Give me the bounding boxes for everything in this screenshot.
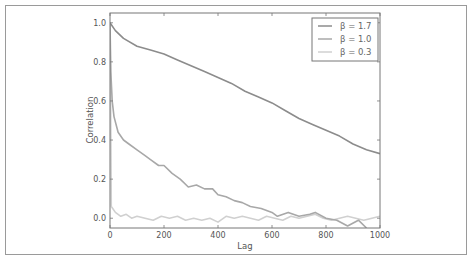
x-tick-label: 600: [264, 231, 279, 240]
x-tick-label: 800: [318, 231, 333, 240]
x-axis-label: Lag: [237, 241, 252, 251]
legend-label-beta-0-3: β = 0.3: [340, 47, 371, 57]
y-axis-label: Correlation: [85, 97, 95, 144]
legend-label-beta-1-7: β = 1.7: [340, 21, 371, 31]
y-tick-label: 0.4: [93, 136, 106, 145]
y-tick-label: 0.2: [93, 175, 106, 184]
y-tick-label: 0.0: [93, 214, 106, 223]
legend: β = 1.7 β = 1.0 β = 0.3: [312, 18, 378, 61]
x-tick-label: 200: [156, 231, 171, 240]
y-tick-label: 0.6: [93, 97, 106, 106]
x-tick-label: 1000: [370, 231, 390, 240]
line-chart: 02004006008001000 0.00.20.40.60.81.0 Lag…: [0, 0, 476, 262]
y-tick-label: 0.8: [93, 58, 106, 67]
x-tick-label: 400: [210, 231, 225, 240]
legend-label-beta-1-0: β = 1.0: [340, 34, 371, 44]
x-tick-label: 0: [107, 231, 112, 240]
y-tick-label: 1.0: [93, 19, 106, 28]
